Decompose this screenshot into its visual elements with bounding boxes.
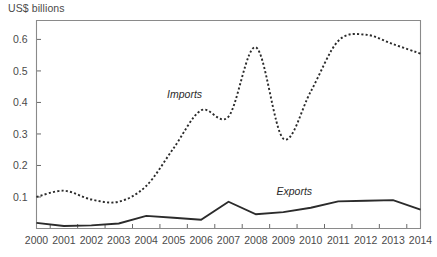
x-axis-tick-label: 2013 [381, 234, 405, 246]
x-axis-tick-label: 2010 [299, 234, 323, 246]
x-axis-tick-label: 2005 [162, 234, 186, 246]
series-label-exports: Exports [277, 185, 313, 197]
chart-container: US$ billions 0.10.20.30.40.50.6 20002001… [0, 0, 437, 257]
x-axis-tick-label: 2002 [80, 234, 104, 246]
x-axis-tick-label: 2007 [217, 234, 241, 246]
y-axis-tick-label: 0.5 [13, 65, 28, 77]
series-annotations: ImportsExports [167, 88, 313, 198]
series-line-exports [37, 200, 421, 226]
plot-frame [37, 21, 421, 229]
x-axis-tick-labels: 2000200120022003200420052006200720082009… [25, 234, 433, 246]
y-axis-tick-marks [37, 39, 42, 197]
x-axis-tick-label: 2001 [52, 234, 76, 246]
y-axis-tick-label: 0.1 [13, 191, 28, 203]
x-axis-tick-label: 2000 [25, 234, 49, 246]
x-axis-tick-label: 2011 [327, 234, 350, 246]
series-line-imports [37, 34, 421, 203]
x-axis-tick-label: 2003 [107, 234, 131, 246]
y-axis-tick-labels: 0.10.20.30.40.50.6 [13, 33, 28, 203]
x-axis-tick-label: 2008 [244, 234, 268, 246]
chart-plot-area: 0.10.20.30.40.50.6 200020012002200320042… [0, 0, 437, 257]
series-label-imports: Imports [167, 88, 203, 100]
y-axis-tick-label: 0.3 [13, 128, 28, 140]
x-axis-tick-label: 2006 [189, 234, 213, 246]
y-axis-tick-label: 0.2 [13, 159, 28, 171]
y-axis-tick-label: 0.6 [13, 33, 28, 45]
x-axis-tick-label: 2009 [272, 234, 296, 246]
x-axis-tick-label: 2004 [135, 234, 159, 246]
y-axis-tick-label: 0.4 [13, 96, 28, 108]
x-axis-tick-label: 2012 [354, 234, 378, 246]
x-axis-tick-label: 2014 [409, 234, 433, 246]
